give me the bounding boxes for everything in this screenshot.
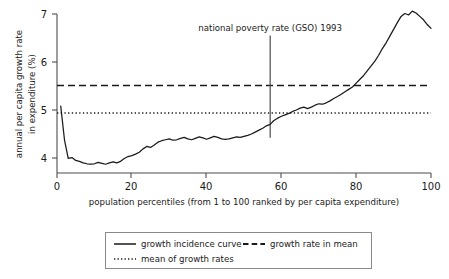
national-poverty-rate-label: national poverty rate (GSO) 1993 (198, 23, 342, 33)
legend-label-growth-incidence-curve: growth incidence curve (141, 239, 242, 249)
x-tick-label-80: 80 (350, 181, 363, 192)
legend-label-mean-of-growth-rates: mean of growth rates (141, 254, 234, 264)
legend-label-growth-rate-in-mean: growth rate in mean (270, 239, 358, 249)
x-axis-title: population percentiles (from 1 to 100 ra… (89, 197, 399, 207)
y-tick-label-6: 6 (41, 57, 47, 68)
y-tick-label-4: 4 (41, 153, 47, 164)
growth-incidence-chart-svg: 7 6 5 4 0 20 40 60 80 100 population per… (0, 0, 449, 279)
y-axis-title-line2: in expenditure (%) (27, 54, 37, 134)
chart-figure: 7 6 5 4 0 20 40 60 80 100 population per… (0, 0, 449, 279)
x-tick-label-0: 0 (54, 181, 60, 192)
y-tick-label-5: 5 (41, 105, 47, 116)
chart-legend: growth incidence curve growth rate in me… (106, 233, 372, 269)
y-tick-label-7: 7 (41, 9, 47, 20)
x-axis-ticks: 0 20 40 60 80 100 (54, 173, 441, 192)
y-axis-title-line1: annual per capita growth rate (14, 30, 24, 158)
x-tick-label-40: 40 (200, 181, 213, 192)
y-axis-ticks: 7 6 5 4 (41, 9, 57, 164)
x-tick-label-60: 60 (275, 181, 288, 192)
growth-incidence-curve-path (61, 11, 431, 164)
x-tick-label-100: 100 (421, 181, 440, 192)
x-tick-label-20: 20 (125, 181, 138, 192)
